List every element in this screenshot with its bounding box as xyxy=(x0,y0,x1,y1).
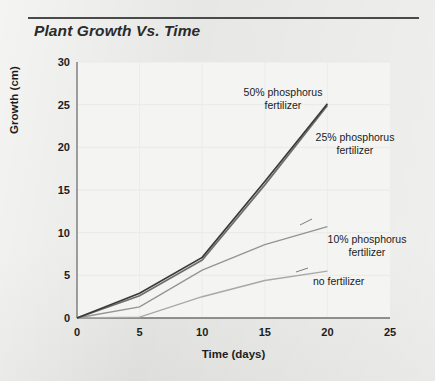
y-tick-20: 20 xyxy=(48,141,70,153)
x-tick-0: 0 xyxy=(66,326,88,338)
y-tick-25: 25 xyxy=(48,99,70,111)
y-tick-30: 30 xyxy=(48,56,70,68)
y-tick-0: 0 xyxy=(48,312,70,324)
leader-10-percent xyxy=(300,219,312,225)
series-label-25-percent: 25% phosphorus fertilizer xyxy=(296,131,414,156)
x-tick-20: 20 xyxy=(316,326,338,338)
series-label-no-fertilizer-line1: no fertilizer xyxy=(313,275,425,288)
y-axis-title: Growth (cm) xyxy=(8,40,20,160)
x-tick-10: 10 xyxy=(191,326,213,338)
x-tick-25: 25 xyxy=(379,326,401,338)
series-label-25-percent-line2: fertilizer xyxy=(296,144,414,157)
series-label-10-percent: 10% phosphorus fertilizer xyxy=(311,233,423,258)
series-label-50-percent-line2: fertilizer xyxy=(224,99,342,112)
leader-no-fertilizer xyxy=(296,268,308,272)
annotation-leaders xyxy=(296,219,312,272)
y-tick-15: 15 xyxy=(48,184,70,196)
series-label-50-percent-line1: 50% phosphorus xyxy=(224,86,342,99)
series-label-10-percent-line2: fertilizer xyxy=(311,246,423,259)
figure-container: Plant Growth Vs. Time xyxy=(0,0,435,381)
series-label-no-fertilizer: no fertilizer xyxy=(313,275,425,288)
series-label-50-percent: 50% phosphorus fertilizer xyxy=(224,86,342,111)
y-tick-10: 10 xyxy=(48,227,70,239)
x-tick-15: 15 xyxy=(254,326,276,338)
x-tick-5: 5 xyxy=(129,326,151,338)
x-axis-title: Time (days) xyxy=(77,348,390,360)
y-tick-5: 5 xyxy=(48,269,70,281)
series-label-10-percent-line1: 10% phosphorus xyxy=(311,233,423,246)
series-label-25-percent-line1: 25% phosphorus xyxy=(296,131,414,144)
